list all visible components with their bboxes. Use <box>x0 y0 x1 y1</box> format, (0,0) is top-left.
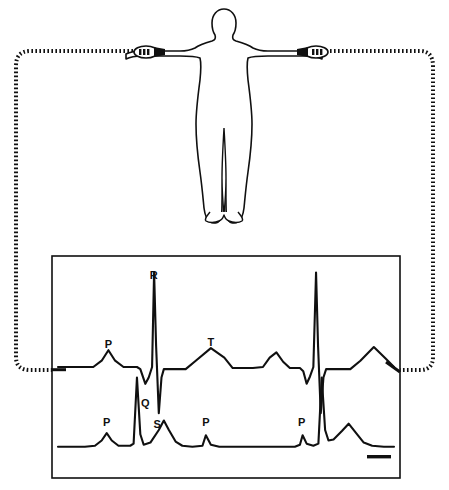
electrode-right-tick-1 <box>312 49 314 55</box>
wave-label-s-3: S <box>153 418 160 430</box>
electrode-right-tick-3 <box>320 49 322 55</box>
electrode-left-tick-3 <box>147 49 149 55</box>
electrode-left-tick-1 <box>139 49 141 55</box>
feet-outline <box>205 212 242 223</box>
electrode-left-tick-2 <box>143 49 145 55</box>
wave-label-p-1: P <box>105 338 112 350</box>
electrode-right-tick-2 <box>316 49 318 55</box>
ecg-diagram-figure: RPQSTPPP <box>0 0 449 490</box>
recorder-marker-bar <box>367 455 391 458</box>
human-body-outline <box>126 9 322 223</box>
wave-label-r-0: R <box>150 269 158 281</box>
wave-label-q-2: Q <box>141 397 150 409</box>
wave-label-p-7: P <box>298 416 305 428</box>
wave-label-p-6: P <box>202 416 209 428</box>
wave-label-t-4: T <box>208 336 215 348</box>
recorder-input-left <box>52 368 66 371</box>
ecg-recorder-panel: RPQSTPPP <box>52 256 400 478</box>
inner-leg-line <box>222 128 226 214</box>
recorder-frame <box>52 256 400 478</box>
wave-label-p-5: P <box>103 416 110 428</box>
diagram-canvas: RPQSTPPP <box>0 0 449 490</box>
